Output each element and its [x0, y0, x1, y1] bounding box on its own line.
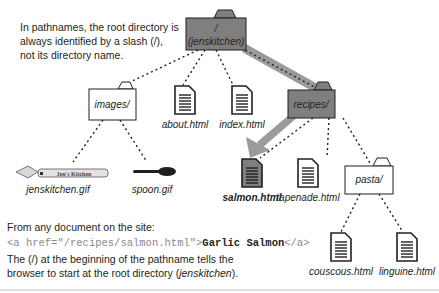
pasta-folder[interactable]: pasta/: [345, 158, 393, 194]
svg-text:jenskitchen.gif: jenskitchen.gif: [24, 184, 91, 195]
svg-text:linguine.html: linguine.html: [379, 266, 436, 277]
svg-text:Jen's Kitchen: Jen's Kitchen: [57, 171, 92, 177]
code-close-tag: </a>: [284, 237, 309, 249]
code-link-text: Garlic Salmon: [202, 237, 284, 249]
svg-text:tapenade.html: tapenade.html: [276, 192, 340, 203]
example-code: <a href="/recipes/salmon.html">Garlic Sa…: [7, 236, 309, 250]
svg-text:(jenskitchen): (jenskitchen): [188, 36, 245, 47]
code-open-tag: <a href="/recipes/salmon.html">: [7, 237, 202, 249]
svg-text:about.html: about.html: [162, 119, 209, 130]
svg-text:index.html: index.html: [219, 119, 265, 130]
explanation-end: ).: [232, 267, 238, 279]
root-folder[interactable]: / (jenskitchen): [186, 10, 246, 50]
example-heading: From any document on the site:: [7, 220, 155, 234]
svg-text:recipes/: recipes/: [293, 99, 329, 110]
spoon-icon: [133, 167, 176, 176]
svg-text:spoon.gif: spoon.gif: [132, 184, 174, 195]
file-about[interactable]: about.html: [162, 86, 209, 130]
svg-text:salmon.html: salmon.html: [223, 192, 282, 203]
file-linguine[interactable]: linguine.html: [379, 233, 436, 277]
file-jenskitchen-gif[interactable]: Jen's Kitchen jenskitchen.gif: [16, 166, 108, 195]
svg-text:couscous.html: couscous.html: [309, 266, 374, 277]
svg-text:images/: images/: [94, 99, 130, 110]
tree-connectors: [73, 48, 403, 232]
file-tapenade[interactable]: tapenade.html: [276, 159, 340, 203]
file-spoon-gif[interactable]: spoon.gif: [132, 167, 176, 195]
images-folder[interactable]: images/: [89, 82, 136, 120]
example-explanation: The (/) at the beginning of the pathname…: [7, 252, 267, 280]
logo-image-icon: Jen's Kitchen: [16, 166, 108, 178]
file-index[interactable]: index.html: [219, 86, 265, 130]
file-salmon[interactable]: salmon.html: [223, 159, 282, 203]
file-couscous[interactable]: couscous.html: [309, 233, 374, 277]
svg-text:pasta/: pasta/: [354, 174, 383, 185]
explanation-root-name: jenskitchen: [179, 267, 232, 279]
